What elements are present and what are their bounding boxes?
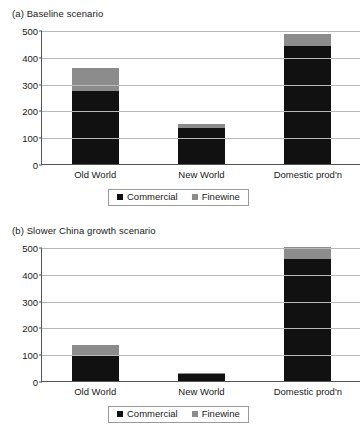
y-axis-tick-label: 0: [33, 160, 38, 171]
gridline: [42, 111, 360, 112]
bar-stack: New World: [178, 124, 225, 164]
legend-swatch-finewine-icon: [192, 194, 198, 200]
chart-title-a: (a) Baseline scenario: [12, 8, 103, 19]
bar-stack: New World: [178, 373, 225, 381]
gridline: [42, 58, 360, 59]
legend-label-finewine: Finewine: [202, 409, 240, 419]
bar-stack: Domestic prod'n: [284, 247, 331, 381]
plot-area-b: Old WorldNew WorldDomestic prod'n 010020…: [41, 248, 360, 382]
bar-stack: Old World: [72, 345, 119, 381]
y-axis-tick-mark: [39, 165, 42, 166]
chart-panel-slower-china: (b) Slower China growth scenario Old Wor…: [0, 218, 364, 436]
y-axis-tick-mark: [39, 84, 42, 85]
chart-panel-baseline: (a) Baseline scenario Old WorldNew World…: [0, 0, 364, 218]
x-axis-label: Domestic prod'n: [228, 386, 364, 397]
bar-segment-finewine: [178, 373, 225, 374]
y-axis-tick-mark: [39, 57, 42, 58]
y-axis-tick-label: 300: [22, 296, 38, 307]
legend-swatch-commercial-icon: [117, 411, 123, 417]
gridline: [42, 31, 360, 32]
y-axis-tick-mark: [39, 382, 42, 383]
gridline: [42, 302, 360, 303]
y-axis-tick-label: 100: [22, 350, 38, 361]
legend-item-commercial: Commercial: [117, 409, 178, 419]
bar-group-a: Old WorldNew WorldDomestic prod'n: [42, 31, 360, 164]
y-axis-tick-label: 400: [22, 52, 38, 63]
bar-segment-finewine: [72, 68, 119, 91]
gridline: [42, 248, 360, 249]
gridline: [42, 85, 360, 86]
y-axis-tick-mark: [39, 138, 42, 139]
y-axis-tick-label: 100: [22, 133, 38, 144]
y-axis-tick-mark: [39, 355, 42, 356]
y-axis-tick-label: 300: [22, 79, 38, 90]
gridline: [42, 275, 360, 276]
bar-segment-finewine: [72, 345, 119, 355]
y-axis-tick-mark: [39, 31, 42, 32]
y-axis-tick-label: 400: [22, 269, 38, 280]
chart-legend-a: Commercial Finewine: [108, 189, 249, 206]
legend-label-finewine: Finewine: [202, 192, 240, 202]
bar-segment-commercial: [284, 46, 331, 164]
bar-segment-finewine: [284, 34, 331, 46]
legend-item-finewine: Finewine: [192, 409, 240, 419]
chart-title-b: (b) Slower China growth scenario: [12, 225, 156, 236]
bar-segment-commercial: [178, 128, 225, 164]
y-axis-tick-label: 500: [22, 26, 38, 37]
y-axis-tick-mark: [39, 274, 42, 275]
legend-swatch-finewine-icon: [192, 411, 198, 417]
y-axis-tick-mark: [39, 328, 42, 329]
legend-item-commercial: Commercial: [117, 192, 178, 202]
legend-swatch-commercial-icon: [117, 194, 123, 200]
y-axis-tick-mark: [39, 248, 42, 249]
bar-segment-finewine: [178, 124, 225, 128]
bar-group-b: Old WorldNew WorldDomestic prod'n: [42, 248, 360, 381]
y-axis-tick-mark: [39, 301, 42, 302]
gridline: [42, 355, 360, 356]
x-axis-label: Domestic prod'n: [228, 169, 364, 180]
plot-area-a: Old WorldNew WorldDomestic prod'n 010020…: [41, 31, 360, 165]
bar-segment-commercial: [284, 259, 331, 381]
y-axis-tick-label: 500: [22, 243, 38, 254]
y-axis-tick-label: 200: [22, 323, 38, 334]
y-axis-tick-label: 200: [22, 106, 38, 117]
legend-item-finewine: Finewine: [192, 192, 240, 202]
bar-segment-commercial: [72, 91, 119, 164]
y-axis-tick-mark: [39, 111, 42, 112]
bar-segment-commercial: [178, 374, 225, 381]
chart-legend-b: Commercial Finewine: [108, 406, 249, 423]
bar-stack: Domestic prod'n: [284, 34, 331, 164]
legend-label-commercial: Commercial: [127, 409, 178, 419]
y-axis-tick-label: 0: [33, 377, 38, 388]
gridline: [42, 328, 360, 329]
bar-segment-commercial: [72, 355, 119, 381]
legend-label-commercial: Commercial: [127, 192, 178, 202]
gridline: [42, 138, 360, 139]
bar-stack: Old World: [72, 68, 119, 164]
